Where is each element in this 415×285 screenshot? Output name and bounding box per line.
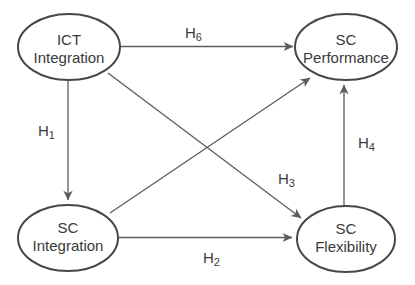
edge-h2: H2 [118,238,292,269]
edge-sc-integration-to-sc-performance-arrow [110,78,310,213]
edge-h1-label: H1 [38,122,55,141]
node-ict-integration-label-line2: Integration [34,49,105,66]
diagram-canvas: H6 H1 H2 H3 H4 ICT Integra [0,0,415,285]
node-sc-flexibility-label-line2: Flexibility [315,238,377,255]
node-sc-performance: SC Performance [295,14,397,80]
node-sc-flexibility: SC Flexibility [297,206,395,272]
edge-h3: H3 [108,73,301,218]
edge-h1: H1 [38,80,68,200]
node-sc-integration-label-line2: Integration [33,237,104,254]
edge-h3-label: H3 [278,170,295,189]
node-ict-integration: ICT Integration [18,14,120,80]
edge-h6: H6 [120,24,293,47]
node-sc-performance-label-line2: Performance [303,49,389,66]
edge-h3-arrow [108,73,301,218]
node-ict-integration-label-line1: ICT [57,31,81,48]
edge-h6-label: H6 [185,24,202,43]
node-sc-flexibility-label-line1: SC [336,220,357,237]
edge-sc-integration-to-sc-performance [110,78,310,213]
edge-h4-label: H4 [358,134,375,153]
edge-h4: H4 [344,85,375,206]
edge-h2-label: H2 [203,249,220,268]
node-sc-integration: SC Integration [18,205,118,271]
node-sc-performance-label-line1: SC [336,31,357,48]
path-model-diagram: H6 H1 H2 H3 H4 ICT Integra [0,0,415,285]
node-sc-integration-label-line1: SC [58,219,79,236]
